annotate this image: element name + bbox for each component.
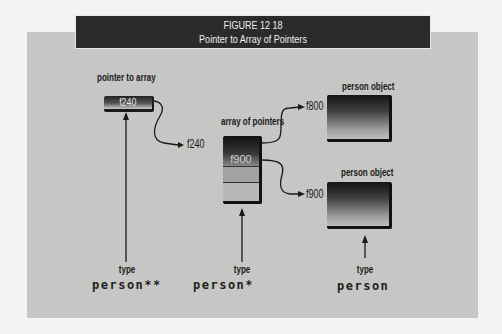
type-value-person-ptr-ptr: person** — [92, 278, 162, 292]
type-value-person: person — [337, 279, 389, 293]
pointer-to-array-label: pointer to array — [97, 72, 156, 83]
array-cell: f900 — [223, 154, 259, 167]
array-cell — [223, 183, 259, 201]
pointer-value: f240 — [119, 96, 136, 109]
object-address-2: f900 — [306, 187, 324, 201]
type-value-person-ptr: person* — [193, 278, 254, 292]
object-address-1: f800 — [306, 99, 324, 113]
array-cell-value: f900 — [230, 153, 251, 165]
array-of-pointers-label: array of pointers — [221, 116, 284, 127]
array-of-pointers-box: f900 — [223, 136, 262, 204]
array-address: f240 — [187, 137, 205, 151]
person-object-box-1 — [327, 95, 392, 142]
type-label-3: type — [349, 264, 381, 275]
pointer-box: f240 — [104, 96, 154, 112]
array-cell — [223, 136, 259, 154]
person-object-label-1: person object — [342, 81, 394, 92]
type-label-1: type — [111, 264, 143, 275]
person-object-label-2: person object — [341, 167, 393, 178]
array-cell — [223, 167, 259, 183]
person-object-box-2 — [327, 182, 392, 229]
type-label-2: type — [226, 264, 258, 275]
